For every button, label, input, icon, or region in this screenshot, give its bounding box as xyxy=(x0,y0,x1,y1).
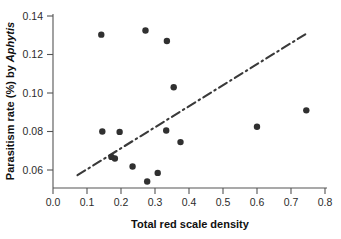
scatter-plot-figure: 0.060.080.100.120.14 0.00.10.20.30.40.50… xyxy=(0,0,341,239)
y-axis-ticks: 0.060.080.100.120.14 xyxy=(23,10,53,176)
data-point xyxy=(164,38,170,44)
x-tick-label: 0.4 xyxy=(182,196,197,208)
x-tick-label: 0.5 xyxy=(216,196,231,208)
chart-canvas: 0.060.080.100.120.14 0.00.10.20.30.40.50… xyxy=(0,0,341,239)
x-axis-title: Total red scale density xyxy=(131,218,250,230)
axes xyxy=(53,14,327,188)
data-point xyxy=(142,27,148,33)
data-point xyxy=(99,128,105,134)
data-point xyxy=(144,178,150,184)
y-tick-label: 0.14 xyxy=(23,10,44,22)
x-tick-label: 0.0 xyxy=(46,196,61,208)
x-axis-ticks: 0.00.10.20.30.40.50.60.70.8 xyxy=(46,188,333,208)
data-point xyxy=(171,84,177,90)
x-tick-label: 0.2 xyxy=(114,196,129,208)
data-point xyxy=(116,129,122,135)
x-tick-label: 0.3 xyxy=(148,196,163,208)
y-tick-label: 0.06 xyxy=(23,164,44,176)
x-tick-label: 0.6 xyxy=(250,196,265,208)
data-point xyxy=(112,155,118,161)
data-point xyxy=(163,127,169,133)
data-point xyxy=(155,170,161,176)
y-axis-title-plain: Parasitism rate (%) by xyxy=(4,62,16,180)
y-tick-label: 0.10 xyxy=(23,87,44,99)
data-point xyxy=(254,123,260,129)
data-point xyxy=(177,139,183,145)
y-axis-title: Parasitism rate (%) by Aphytis xyxy=(4,22,16,180)
data-point xyxy=(303,107,309,113)
y-axis-title-italic: Aphytis xyxy=(4,22,16,63)
data-point xyxy=(129,163,135,169)
y-tick-label: 0.12 xyxy=(23,48,44,60)
x-tick-label: 0.1 xyxy=(80,196,95,208)
data-point xyxy=(98,31,104,37)
y-tick-label: 0.08 xyxy=(23,125,44,137)
x-tick-label: 0.7 xyxy=(284,196,299,208)
x-tick-label: 0.8 xyxy=(318,196,333,208)
